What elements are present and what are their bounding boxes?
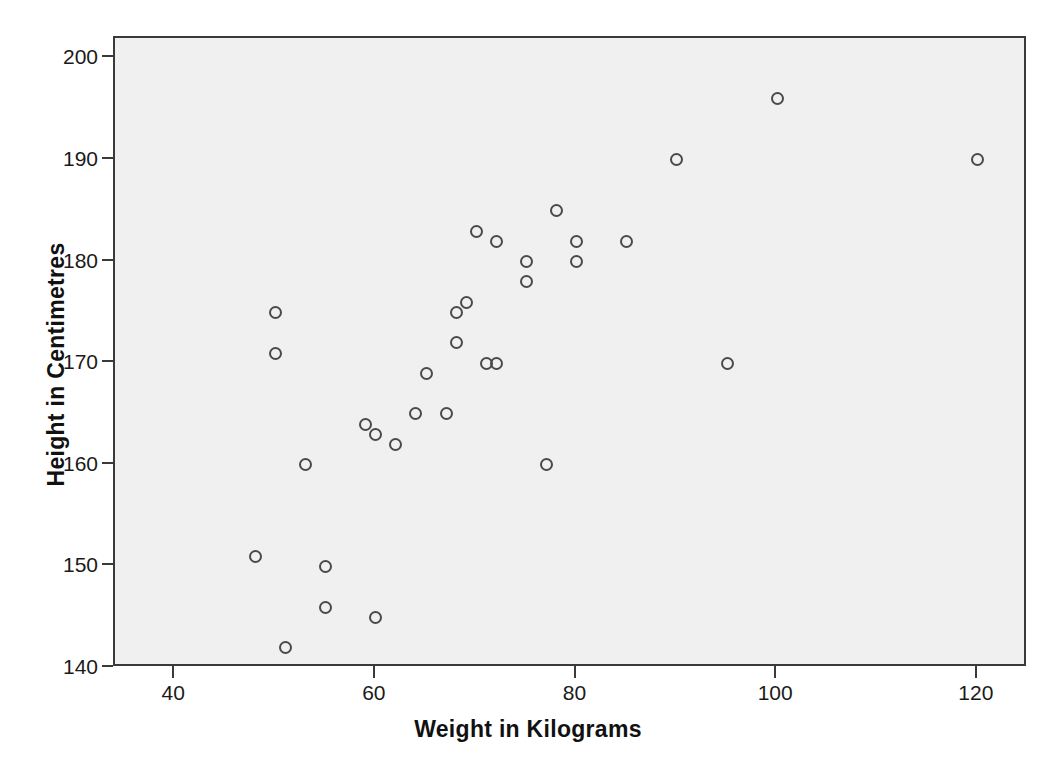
x-axis-tick-mark: [574, 666, 576, 678]
data-point: [440, 407, 453, 420]
y-axis-tick-label: 200: [63, 46, 98, 67]
data-point: [550, 204, 563, 217]
data-point: [470, 225, 483, 238]
x-axis-tick-mark: [373, 666, 375, 678]
data-point: [269, 347, 282, 360]
x-axis-tick-label: 120: [958, 682, 993, 703]
x-axis-title: Weight in Kilograms: [0, 716, 1056, 743]
x-axis-tick-label: 40: [162, 682, 185, 703]
data-point: [520, 275, 533, 288]
x-axis-tick-label: 80: [563, 682, 586, 703]
data-point: [249, 550, 262, 563]
data-point: [369, 428, 382, 441]
y-axis-title: Height in Centimetres: [43, 105, 70, 625]
data-point: [490, 357, 503, 370]
y-axis-tick-mark: [102, 55, 113, 57]
data-point: [540, 458, 553, 471]
data-point: [971, 153, 984, 166]
x-axis-tick-mark: [172, 666, 174, 678]
y-axis-tick-mark: [102, 360, 113, 362]
data-point: [319, 560, 332, 573]
data-point: [319, 601, 332, 614]
data-point: [670, 153, 683, 166]
data-point: [369, 611, 382, 624]
data-point: [460, 296, 473, 309]
data-point: [490, 235, 503, 248]
data-point: [269, 306, 282, 319]
x-axis-tick-label: 60: [362, 682, 385, 703]
data-point: [450, 336, 463, 349]
data-point: [771, 92, 784, 105]
data-point: [721, 357, 734, 370]
x-axis-tick-mark: [975, 666, 977, 678]
data-points-layer: [115, 38, 1024, 664]
data-point: [570, 255, 583, 268]
data-point: [389, 438, 402, 451]
y-axis-tick-mark: [102, 462, 113, 464]
data-point: [409, 407, 422, 420]
data-point: [620, 235, 633, 248]
y-axis-tick-mark: [102, 157, 113, 159]
x-axis-tick-mark: [774, 666, 776, 678]
data-point: [420, 367, 433, 380]
data-point: [279, 641, 292, 654]
data-point: [520, 255, 533, 268]
y-axis-tick-mark: [102, 563, 113, 565]
plot-area: [113, 36, 1026, 666]
scatter-plot-figure: 140150160170180190200 406080100120 Weigh…: [0, 0, 1056, 774]
data-point: [299, 458, 312, 471]
y-axis-tick-mark: [102, 259, 113, 261]
data-point: [450, 306, 463, 319]
x-axis-tick-label: 100: [758, 682, 793, 703]
data-point: [570, 235, 583, 248]
